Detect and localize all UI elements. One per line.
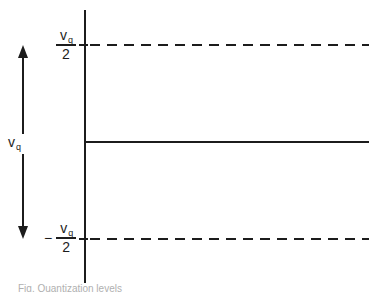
quantization-diagram: vq vq 2 − vq 2 Fig. Quantization levels [0, 0, 378, 292]
upper-level-dashed-line [90, 44, 369, 46]
lower-level-label: − vq 2 [44, 221, 76, 254]
upper-level-label: vq 2 [56, 28, 76, 61]
upper-numerator-base: v [60, 27, 67, 43]
minus-sign: − [44, 230, 52, 246]
figure-caption-clipped: Fig. Quantization levels [18, 284, 228, 292]
lower-level-fraction: vq 2 [56, 221, 76, 254]
range-arrow-label: vq [8, 133, 20, 151]
lower-level-dashed-line [90, 238, 369, 240]
upper-level-denominator: 2 [62, 46, 70, 62]
range-arrow-upper-shaft [22, 57, 24, 134]
lower-numerator-subscript: q [68, 228, 73, 238]
range-arrow-lower-shaft [22, 154, 24, 226]
lower-numerator-base: v [60, 220, 67, 236]
upper-level-tick [79, 44, 88, 46]
upper-numerator-subscript: q [68, 35, 73, 45]
lower-level-denominator: 2 [62, 239, 70, 255]
zero-level-solid-line [86, 141, 369, 143]
vertical-axis-line [84, 10, 86, 283]
range-arrow-down-head-icon [18, 226, 28, 239]
range-label-base: v [8, 134, 15, 150]
range-label-subscript: q [16, 142, 21, 152]
lower-level-tick [79, 238, 88, 240]
upper-level-numerator: vq [56, 28, 76, 46]
lower-level-numerator: vq [56, 221, 76, 239]
